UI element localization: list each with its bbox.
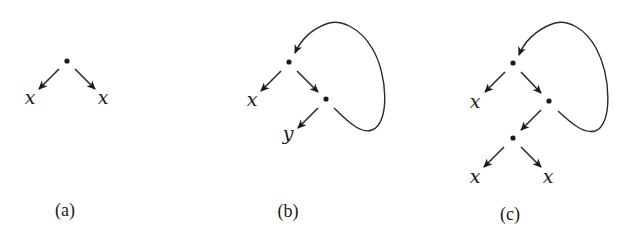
back-edge-loop-arrow [519,22,608,131]
edge-arrow [521,72,541,93]
caption-c: (c) [500,204,520,225]
edge-arrow [261,71,281,91]
edge-arrow [521,110,541,130]
panel-b-tree-with-loop: xy [247,22,385,144]
leaf-label-x: x [470,165,481,187]
leaf-label-x: x [543,165,554,187]
tree-node-dot [510,60,515,65]
edge-arrow [75,69,95,89]
leaf-label-x: x [470,90,481,112]
edge-arrow [484,147,504,167]
tree-node-dot [546,98,551,103]
figure-canvas: xx xy xxx (a) (b) (c) [0,0,629,242]
panel-a-tree: xx [25,58,109,108]
tree-node-dot [286,59,291,64]
panel-c-tree-with-loop: xxx [470,22,608,187]
back-edge-loop-arrow [295,22,385,131]
leaf-label-y: y [282,122,294,144]
tree-node-dot [64,58,69,63]
edge-arrow [485,72,505,92]
leaf-label-x: x [247,88,258,110]
caption-b: (b) [278,201,299,222]
tree-node-dot [323,96,328,101]
edge-arrow [297,71,318,92]
tree-node-dot [510,135,515,140]
edge-arrow [298,108,318,128]
leaf-label-x: x [98,86,109,108]
leaf-label-x: x [25,86,36,108]
caption-a: (a) [55,200,75,221]
edge-arrow [39,69,59,89]
edge-arrow [521,147,541,167]
